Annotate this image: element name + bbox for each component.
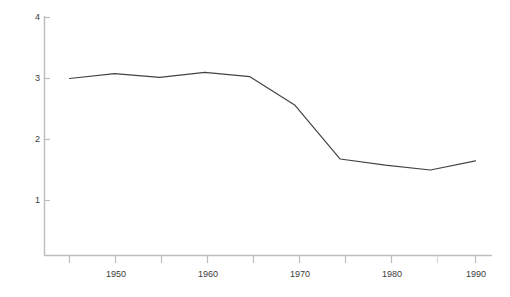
x-axis-label-1950: 1950 bbox=[96, 270, 136, 279]
chart-plot-area bbox=[0, 0, 510, 297]
x-axis-label-1980: 1980 bbox=[372, 270, 412, 279]
line-chart: 4 3 2 1 1950 1960 1970 1980 1990 bbox=[0, 0, 510, 297]
x-axis-label-1970: 1970 bbox=[280, 270, 320, 279]
y-axis-label-2: 2 bbox=[22, 135, 40, 144]
y-axis bbox=[45, 16, 51, 255]
data-series-line bbox=[70, 72, 476, 170]
x-axis bbox=[44, 256, 492, 264]
x-axis-label-1990: 1990 bbox=[456, 270, 496, 279]
y-axis-label-1: 1 bbox=[22, 196, 40, 205]
x-axis-label-1960: 1960 bbox=[188, 270, 228, 279]
y-axis-label-3: 3 bbox=[22, 74, 40, 83]
y-axis-label-4: 4 bbox=[22, 13, 40, 22]
